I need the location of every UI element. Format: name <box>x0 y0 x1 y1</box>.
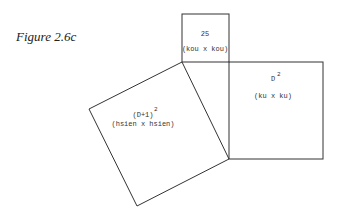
right-square-base: D <box>271 75 275 83</box>
tilted-square-base: (D+1) <box>132 111 153 119</box>
small-square <box>182 14 229 62</box>
tilted-square <box>89 62 229 206</box>
small-square-value: 25 <box>201 30 209 38</box>
pythagorean-squares-diagram: 25 (kou x kou) D 2 (ku x ku) (D+1) 2 (hs… <box>0 0 340 218</box>
right-square <box>229 62 323 159</box>
right-square-expr: (ku x ku) <box>254 92 292 100</box>
right-square-exponent: 2 <box>277 71 281 78</box>
tilted-square-exponent: 2 <box>154 106 158 113</box>
small-square-expr: (kou x kou) <box>182 45 228 53</box>
tilted-square-expr: (hsien x hsien) <box>111 120 174 128</box>
